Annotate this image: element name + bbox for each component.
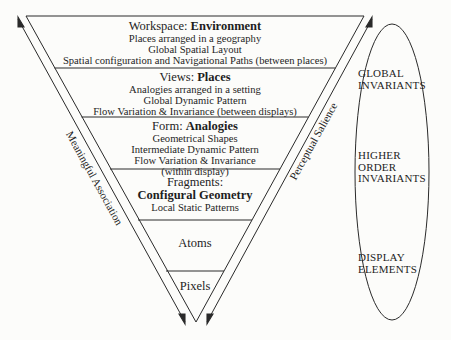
level-line: Intermediate Dynamic Pattern [100, 144, 290, 155]
level-title: Views: Places [70, 71, 320, 84]
level-line: Global Dynamic Pattern [70, 95, 320, 106]
level-line: Flow Variation & Invariance (between dis… [70, 106, 320, 117]
level-line: Places arranged in a geography [40, 33, 350, 44]
level-line: Global Spatial Layout [40, 44, 350, 55]
level-pixels: Pixels [165, 280, 225, 293]
level-title: Atoms [150, 237, 240, 250]
level-views: Views: Places Analogies arranged in a se… [70, 71, 320, 117]
level-title: Workspace: Environment [40, 20, 350, 33]
level-title: Form: Analogies [100, 120, 290, 133]
level-line: Spatial configuration and Navigational P… [40, 55, 350, 66]
level-subtitle: Configural Geometry [115, 189, 275, 202]
level-line: Local Static Patterns [115, 202, 275, 213]
level-line: Geometrical Shapes [100, 133, 290, 144]
level-line: Analogies arranged in a setting [70, 84, 320, 95]
label-higher-order-invariants: HIGHER ORDER INVARIANTS [358, 150, 426, 185]
label-global-invariants: GLOBAL INVARIANTS [358, 68, 426, 91]
level-form: Form: Analogies Geometrical Shapes Inter… [100, 120, 290, 178]
level-fragments: Fragments: Configural Geometry Local Sta… [115, 176, 275, 213]
level-line: Flow Variation & Invariance [100, 155, 290, 166]
level-title: Pixels [165, 280, 225, 293]
level-workspace: Workspace: Environment Places arranged i… [40, 20, 350, 66]
label-display-elements: DISPLAY ELEMENTS [358, 252, 417, 275]
level-atoms: Atoms [150, 237, 240, 250]
